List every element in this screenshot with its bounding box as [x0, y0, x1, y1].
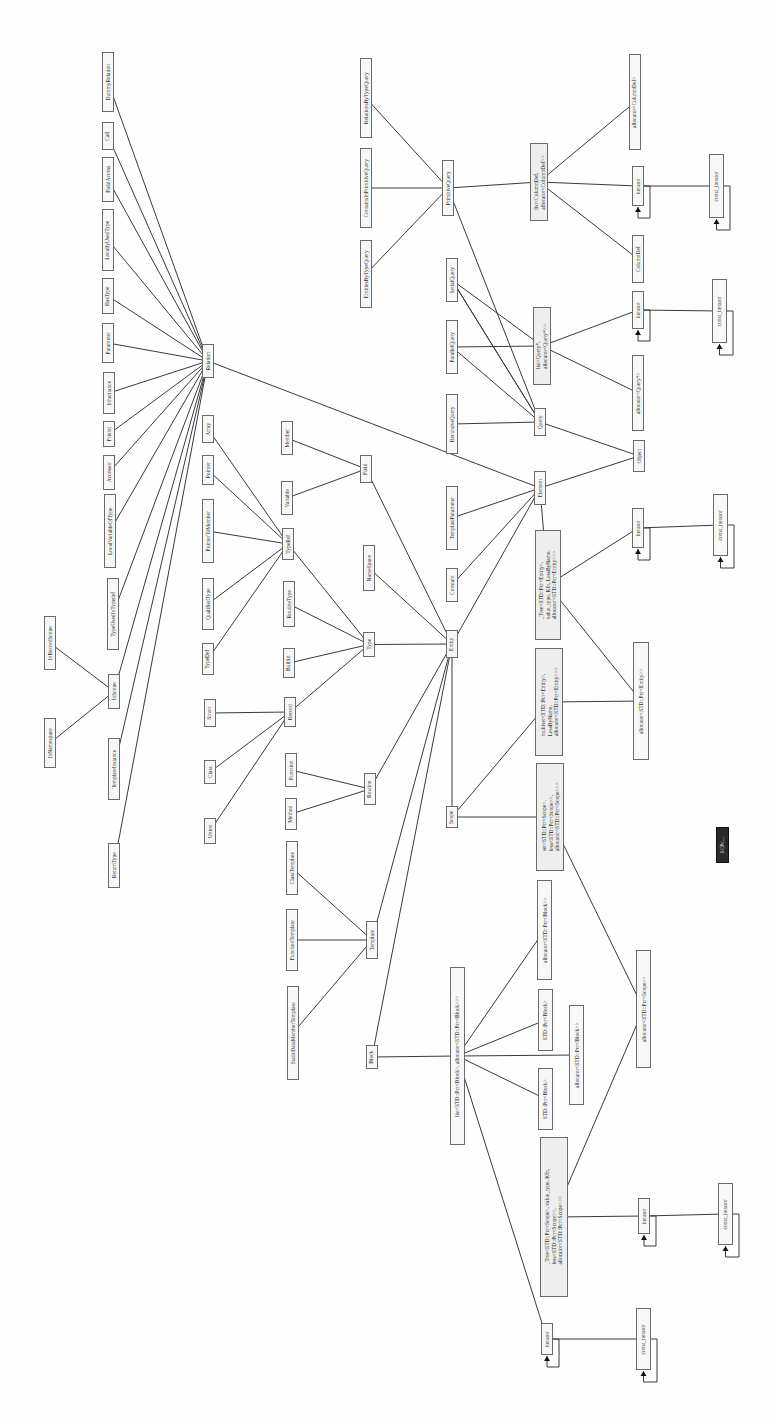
node-label: STD::Pcr<Block> [542, 1079, 549, 1119]
arrowhead-icon [717, 344, 723, 349]
node-hastype: HasType [102, 278, 114, 314]
node-label: Array [205, 423, 212, 436]
node-label: const_iterator [722, 1199, 729, 1229]
edge-block-entity [372, 644, 452, 1057]
node-label: SCPc... [719, 837, 726, 853]
node-stdpcrblock2: STD::Pcr<Block> [538, 1068, 553, 1130]
edge-element-object [540, 456, 639, 488]
node-darkblock: SCPc... [716, 827, 729, 863]
node-listblock: list<STD::Pcr<Block>, allocator<STD::Pcr… [450, 967, 465, 1145]
node-label: multiset<STD::Pcr<Entity>, LessByName, a… [539, 668, 559, 737]
arrowhead-icon [641, 1235, 647, 1240]
node-label: Parameter [105, 332, 112, 354]
edge-returntype-relation [114, 361, 208, 866]
node-label: Routine [367, 780, 374, 797]
node-label: Member [284, 429, 291, 448]
node-type: Type [363, 632, 375, 657]
edge-class-record [210, 712, 290, 772]
edge-listqueryptr-allocatorquery [542, 346, 638, 393]
edge-fieldaccess-relation [108, 180, 208, 362]
node-scope: Scope [446, 806, 458, 828]
node-label: list<STD::Pcr<Block>, allocator<STD::Pcr… [454, 995, 461, 1116]
node-allocatorquery: allocator<Query*> [632, 355, 644, 431]
node-call: Call [102, 122, 114, 150]
node-label: const_iterator [717, 510, 724, 540]
node-element: Element [534, 471, 546, 505]
node-routinetype: RoutineType [283, 581, 295, 627]
edge-mapentity-iteratore [548, 528, 638, 585]
node-label: Struct [207, 706, 214, 719]
node-label: TypeDef [205, 649, 212, 668]
node-containsinprimitivequery: ContainsInPrimitiveQuery [360, 148, 372, 228]
edge-classtemplate-template [292, 868, 372, 940]
node-label: LocallyUsedType [105, 220, 112, 259]
node-label: PrimitiveQuery [445, 171, 452, 205]
node-label: DummyRelation [105, 64, 112, 101]
node-relation: Relation [202, 344, 214, 378]
edge-innamespace-inscope [50, 692, 114, 744]
node-dummyrelation: DummyRelation [102, 52, 114, 112]
edge-field-entity [366, 469, 452, 644]
node-returntype: ReturnType [108, 843, 120, 888]
node-routine: Routine [364, 773, 376, 805]
node-accessor: Accessor [103, 455, 115, 490]
node-constant: Constant [446, 568, 458, 602]
edge-typeref-type [288, 544, 369, 645]
arrowhead-icon [714, 219, 720, 224]
node-label: RecursiveQuery [449, 406, 456, 442]
node-label: FieldAccess [105, 166, 112, 193]
node-label: _Tree<STD::Pcr<Entity>, value_type, Kfn,… [538, 550, 558, 619]
node-label: InRecordScope [47, 626, 54, 660]
node-label: PointerToMember [205, 511, 212, 551]
edge-type-entity [369, 644, 452, 645]
node-label: QualifiedType [205, 588, 212, 620]
node-label: iterator [635, 520, 642, 536]
edge-hastype-relation [108, 296, 208, 361]
node-label: InScope [111, 682, 118, 700]
edge-parallelquery-listqueryptr [452, 346, 542, 347]
arrowhead-icon [718, 557, 724, 562]
node-label: TypeRef [285, 535, 292, 554]
node-union: Union [204, 818, 216, 844]
node-label: iterator [635, 302, 642, 318]
node-label: RelationsByTypeQuery [363, 72, 370, 124]
edge-listblock-allocatorblock1 [458, 930, 545, 1056]
edge-variable-field [287, 469, 366, 498]
node-label: const_iterator [716, 296, 723, 326]
edge-template-entity [372, 644, 452, 940]
node-templateinstance: TemplateInstance [108, 738, 120, 800]
node-innamespace: InNamespace [44, 718, 56, 768]
node-label: FunctionTemplate [289, 920, 296, 960]
node-label: NameSpace [366, 555, 373, 581]
node-allocatorblock2: allocator<STD::Pcr<Block>> [569, 1005, 584, 1105]
edge-call-relation [108, 136, 208, 361]
edge-query-object [540, 422, 639, 456]
node-inscope: InScope [108, 674, 120, 709]
node-label: TemplateParameter [449, 497, 456, 540]
node-pointer: Pointer [202, 455, 214, 485]
node-classtemplate: ClassTemplate [286, 841, 298, 895]
edge-listqueryptr-iteratorq [542, 310, 638, 346]
node-label: Call [105, 131, 112, 140]
node-parallelquery: ParallelQuery [446, 320, 458, 374]
node-label: Record [287, 704, 294, 720]
edge-typeusedintypedef-relation [113, 361, 208, 614]
edge-parameter-relation [108, 343, 208, 361]
node-label: Inheritance [106, 381, 113, 406]
node-label: Block [369, 1050, 376, 1063]
edge-setscope-allocatorscope [550, 817, 644, 1009]
node-label: Type [366, 639, 373, 650]
node-label: set<STD::Pcr<Scope>, less<STD::Pcr<Scope… [540, 783, 560, 852]
edge-templateinstance-relation [114, 361, 208, 769]
edge-dummyrelation-relation [108, 82, 208, 361]
node-label: Method [288, 805, 295, 822]
node-label: StaticDataMemberTemplate [290, 1002, 297, 1064]
node-label: Template [369, 930, 376, 950]
node-label: const_iterator [640, 1324, 647, 1354]
node-mapentity: _Tree<STD::Pcr<Entity>, value_type, Kfn,… [535, 530, 561, 640]
node-constiteratorq: const_iterator [712, 279, 727, 343]
edge-listblock-allocatorblock2 [458, 1055, 577, 1056]
edge-entity-element [452, 488, 540, 644]
edge-recursivequery-query [452, 422, 540, 424]
node-stdpcrblock1: STD::Pcr<Block> [538, 989, 553, 1051]
